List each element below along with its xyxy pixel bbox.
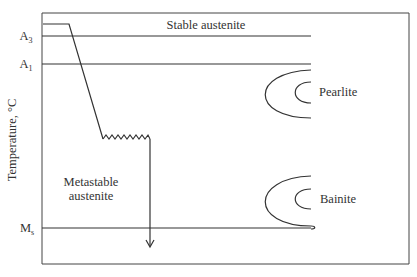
cooling-path	[43, 24, 103, 139]
pearlite-inner-curve	[295, 82, 311, 103]
ttt-diagram: A3 A1 Ms Temperature, °C Stable austenit…	[0, 0, 417, 277]
pearlite-label: Pearlite	[319, 85, 358, 99]
ms-label: Ms	[20, 221, 34, 237]
metastable-label-line2: austenite	[69, 189, 114, 203]
isothermal-hold-zigzag	[103, 135, 150, 139]
plot-frame	[42, 13, 409, 264]
stable-austenite-label: Stable austenite	[167, 18, 246, 32]
bainite-label: Bainite	[320, 192, 357, 206]
y-axis-label: Temperature, °C	[5, 99, 19, 182]
pearlite-outer-curve	[265, 70, 311, 118]
bainite-outer-curve	[265, 176, 315, 229]
a1-label: A1	[19, 57, 32, 73]
metastable-label-line1: Metastable	[64, 175, 119, 189]
a3-label: A3	[19, 29, 32, 45]
bainite-inner-curve	[295, 189, 311, 209]
